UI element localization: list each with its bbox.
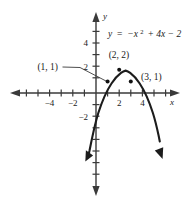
parabola-right-arrowhead: [155, 147, 163, 159]
parabola-figure: −4 −2 2 4 4 2 −2 x y (1, 1) (2, 2) (3, 1…: [0, 0, 190, 202]
y-axis: [92, 12, 99, 196]
y-axis-arrow-bottom: [92, 186, 99, 196]
point-label-3-1: (3, 1): [141, 72, 162, 83]
equation-exponent: 2: [140, 28, 143, 35]
equation-label: y = −x 2 + 4x − 2: [107, 26, 181, 40]
equation-lhs: y: [107, 29, 113, 39]
x-tick-label-4: 4: [140, 98, 145, 108]
y-axis-arrow-top: [92, 12, 99, 22]
y-axis-label: y: [102, 11, 107, 21]
x-axis: [10, 89, 180, 96]
point-marker-3-1: [129, 79, 133, 83]
x-axis-arrow-left: [10, 89, 20, 96]
leader-line-1-1-upper: [63, 67, 81, 68]
point-label-2-2: (2, 2): [109, 50, 130, 61]
graph-canvas: −4 −2 2 4 4 2 −2 x y (1, 1) (2, 2) (3, 1…: [0, 0, 190, 202]
point-marker-2-2: [117, 68, 121, 72]
y-tick-label-2: 2: [84, 62, 89, 72]
x-tick-label-neg4: −4: [45, 98, 55, 108]
y-tick-label-4: 4: [84, 38, 89, 48]
parabola-curve: [89, 71, 160, 155]
equation-equals: =: [117, 29, 122, 39]
x-tick-label-2: 2: [117, 98, 122, 108]
x-axis-arrow-right: [170, 89, 180, 96]
x-axis-label: x: [169, 97, 174, 107]
equation-term1: −x: [127, 29, 138, 39]
x-tick-label-neg2: −2: [68, 98, 78, 108]
equation-term2: + 4x − 2: [147, 29, 181, 39]
svg-text:y = −x: y = −x 2 + 4x − 2: [107, 26, 181, 40]
point-label-1-1: (1, 1): [37, 62, 58, 73]
y-tick-label-neg2: −2: [78, 112, 88, 122]
point-marker-1-1: [106, 79, 110, 83]
